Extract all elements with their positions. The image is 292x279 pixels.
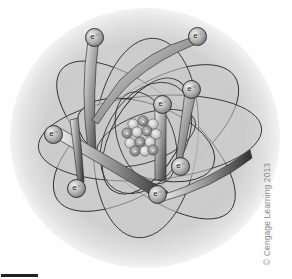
svg-text:+: +: [151, 147, 155, 153]
electron: e⁻: [188, 27, 207, 46]
electron-label: e⁻: [193, 31, 201, 40]
svg-text:+: +: [145, 128, 149, 134]
electron-label: e⁻: [176, 161, 184, 170]
electron: e⁻: [85, 28, 104, 47]
scale-bar: [1, 274, 38, 277]
svg-text:+: +: [141, 118, 145, 124]
electron-label: e⁻: [187, 84, 195, 93]
svg-text:+: +: [125, 130, 129, 136]
electron-label: e⁻: [153, 189, 161, 198]
electron: e⁻: [44, 125, 63, 144]
electron: e⁻: [182, 80, 201, 99]
electron-label: e⁻: [49, 129, 57, 138]
svg-text:+: +: [138, 139, 142, 145]
svg-text:+: +: [133, 148, 137, 154]
electron: e⁻: [153, 95, 172, 114]
copyright-credit: © Cengage Learning 2013: [262, 163, 272, 265]
atom-illustration: +++ +++: [0, 0, 292, 279]
atom-diagram: +++ +++ e⁻ e⁻ e⁻ e⁻ e⁻ e⁻ e⁻ e⁻ © Cengag…: [0, 0, 292, 279]
electron: e⁻: [171, 157, 190, 176]
electron-label: e⁻: [72, 183, 80, 192]
electron-label: e⁻: [90, 32, 98, 41]
electron: e⁻: [148, 185, 167, 204]
electron-label: e⁻: [158, 99, 166, 108]
electron: e⁻: [67, 179, 86, 198]
